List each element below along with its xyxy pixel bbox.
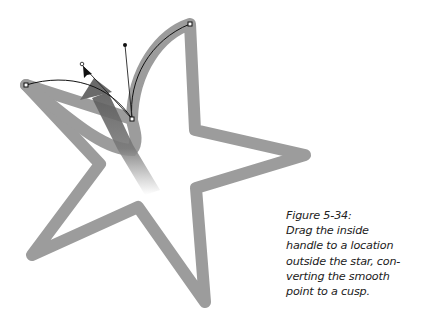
caption-line: Drag the inside <box>286 223 429 238</box>
square-anchor-point-icon[interactable] <box>188 22 192 26</box>
caption-line: outside the star, con- <box>286 254 429 269</box>
figure-caption: Figure 5-34: Drag the inside handle to a… <box>286 208 429 299</box>
star-outline <box>26 24 305 302</box>
caption-line: handle to a location <box>286 238 429 253</box>
square-anchor-point-icon[interactable] <box>130 117 134 121</box>
caption-line: verting the smooth <box>286 269 429 284</box>
bezier-handle-dot-icon[interactable] <box>123 43 127 47</box>
caption-line: point to a cusp. <box>286 284 429 299</box>
arrow-pointer-icon <box>80 62 92 78</box>
figure-label: Figure 5-34: <box>286 208 429 223</box>
square-anchor-point-icon[interactable] <box>24 83 28 87</box>
